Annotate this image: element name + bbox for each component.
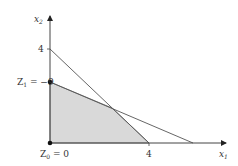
label-z0: Z0 = 0 xyxy=(40,149,69,160)
x-tick-label: 4 xyxy=(146,149,152,159)
x-axis-label: x1 xyxy=(219,149,228,160)
lp-feasible-region-diagram: x2 x1 4 4 Z1 = −9 Z0 = 0 xyxy=(0,0,238,166)
label-z1: Z1 = −9 xyxy=(17,77,54,88)
feasible-region xyxy=(50,82,149,143)
y-tick-label: 4 xyxy=(38,44,44,54)
point-z0 xyxy=(48,141,53,146)
y-axis-label: x2 xyxy=(34,14,43,25)
